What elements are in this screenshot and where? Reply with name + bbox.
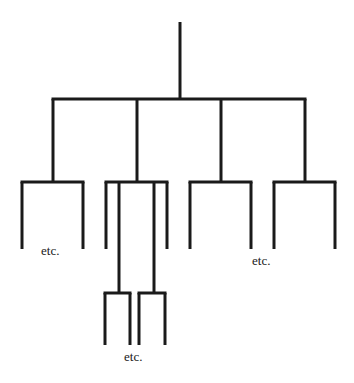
etc-label-branch-3-4: etc. <box>252 254 270 267</box>
etc-label-branch-2-sub: etc. <box>124 350 142 363</box>
tree-diagram <box>0 0 354 383</box>
tree-edges <box>21 22 337 345</box>
etc-label-branch-1: etc. <box>41 244 59 257</box>
